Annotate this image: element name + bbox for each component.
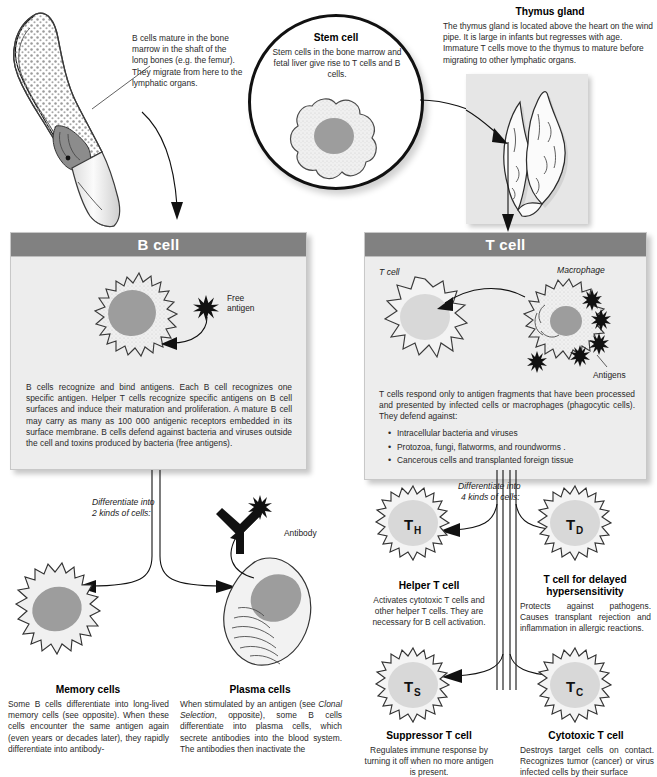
antigens-label: Antigens xyxy=(593,370,626,380)
thymus-title: Thymus gland xyxy=(446,6,654,18)
t-cell-defense-list: Intracellular bacteria and viruses Proto… xyxy=(385,427,635,468)
suppressor-t-cell-illustration: T S xyxy=(368,646,458,730)
free-antigen-label-line2: antigen xyxy=(227,303,254,313)
helper-t-body: Activates cytotoxic T cells and other he… xyxy=(366,595,492,629)
b-differentiate-label-line2: 2 kinds of cells: xyxy=(92,508,151,519)
b-cell-panel-header: B cell xyxy=(11,233,306,257)
t-cell-panel: T cell T cell Macrophage xyxy=(364,232,647,480)
plasma-body-part1: When stimulated by an antigen (see xyxy=(180,699,318,709)
t-cell-defense-item: Intracellular bacteria and viruses xyxy=(397,427,635,441)
b-differentiate-label-line1: Differentiate into xyxy=(92,497,155,508)
bone-marrow-illustration xyxy=(6,6,126,228)
b-cell-panel-body: B cells recognize and bind antigens. Eac… xyxy=(26,382,292,449)
thymus-gland-photo xyxy=(466,74,588,224)
bone-marrow-caption: B cells mature in the bone marrow in the… xyxy=(132,33,244,89)
helper-t-cell-illustration: T H xyxy=(368,484,458,576)
plasma-cells-body: When stimulated by an antigen (see Clona… xyxy=(180,699,342,755)
helper-t-title: Helper T cell xyxy=(366,580,492,592)
helper-t-subscript: H xyxy=(414,525,421,536)
free-antigen-label-line1: Free xyxy=(227,293,244,303)
t-cell-macrophage-illustration xyxy=(379,273,641,381)
plasma-to-antibody-arrow xyxy=(212,520,260,580)
delayed-t-cell-illustration: T D xyxy=(530,484,620,576)
stem-cell-illustration xyxy=(278,92,394,188)
stem-cell-description: Stem cells in the bone marrow and fetal … xyxy=(272,47,402,81)
thymus-to-tcell-arrow xyxy=(498,142,518,232)
memory-cells-body: Some B cells differentiate into long-liv… xyxy=(8,699,169,755)
t-cell-panel-header: T cell xyxy=(365,233,646,257)
cytotoxic-t-cell-illustration: T C xyxy=(530,646,620,730)
delayed-t-title-line2: hypersensitivity xyxy=(520,586,650,598)
cytotoxic-t-title: Cytotoxic T cell xyxy=(520,730,652,742)
suppressor-t-symbol: T xyxy=(404,678,413,695)
cytotoxic-t-body: Destroys target cells on contact. Recogn… xyxy=(520,745,654,777)
antigen-to-bcell-arrow xyxy=(151,315,213,353)
cytotoxic-t-subscript: C xyxy=(576,687,583,698)
delayed-t-symbol: T xyxy=(566,516,575,533)
bone-to-bcell-arrow xyxy=(140,110,200,230)
t-differentiate-label-line1: Differentiate into xyxy=(458,481,521,492)
t-differentiate-label-line2: 4 kinds of cells: xyxy=(461,492,520,503)
b-cell-panel: B cell Free antigen xyxy=(10,232,307,470)
cytotoxic-t-symbol: T xyxy=(566,678,575,695)
antibody-label: Antibody xyxy=(284,528,317,538)
memory-cells-title: Memory cells xyxy=(8,684,168,696)
t-cell-defense-item: Protozoa, fungi, flatworms, and roundwor… xyxy=(397,441,635,455)
delayed-t-subscript: D xyxy=(576,525,583,536)
helper-t-symbol: T xyxy=(404,516,413,533)
thymus-description: The thymus gland is located above the he… xyxy=(443,21,655,66)
suppressor-t-subscript: S xyxy=(414,687,421,698)
delayed-t-title-line1: T cell for delayed xyxy=(520,574,650,586)
suppressor-t-title: Suppressor T cell xyxy=(364,730,494,742)
delayed-t-body: Protects against pathogens. Causes trans… xyxy=(520,601,651,635)
diagram-canvas: B cells mature in the bone marrow in the… xyxy=(0,0,657,777)
t-cell-panel-body: T cells respond only to antigen fragment… xyxy=(379,389,635,423)
stem-cell-title: Stem cell xyxy=(248,32,424,44)
t-cell-defense-item: Cancerous cells and transplanted foreign… xyxy=(397,454,635,468)
suppressor-t-body: Regulates immune response by turning it … xyxy=(364,745,494,777)
memory-cell-illustration xyxy=(14,561,110,673)
plasma-cells-title: Plasma cells xyxy=(180,684,340,696)
